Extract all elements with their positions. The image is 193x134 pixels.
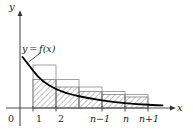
x-tick-label-n: n: [123, 114, 129, 124]
x-tick-label-2: 2: [58, 114, 64, 124]
inscribed-rect: [33, 80, 56, 109]
y-axis-label: y: [9, 2, 15, 12]
origin-label: 0: [8, 114, 14, 124]
x-axis-label: x: [177, 103, 183, 113]
x-tick-label-1: 1: [36, 114, 42, 124]
x-tick-label-n-plus-1: n+1: [139, 114, 159, 124]
x-tick-label-n-minus-1: n−1: [90, 114, 110, 124]
integral-test-figure: y x 0 y = f(x) 1 2 n−1 n n+1: [0, 0, 193, 134]
curve-equation-label: y = f(x): [22, 44, 55, 54]
